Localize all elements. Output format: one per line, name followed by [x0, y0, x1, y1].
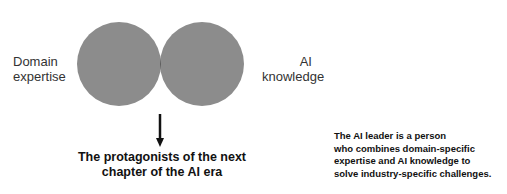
caption-line1: The protagonists of the next: [60, 150, 264, 165]
domain-expertise-circle: [77, 22, 161, 106]
domain-expertise-label: Domain expertise: [13, 54, 66, 84]
note-line3: expertise and AI knowledge to: [334, 155, 491, 168]
domain-expertise-label-line2: expertise: [13, 69, 66, 84]
domain-expertise-label-line1: Domain: [13, 54, 66, 69]
ai-knowledge-label-line2: knowledge: [262, 69, 312, 84]
caption-line2: chapter of the AI era: [60, 165, 264, 180]
ai-leader-note: The AI leader is a person who combines d…: [334, 130, 491, 180]
protagonists-caption: The protagonists of the next chapter of …: [60, 150, 264, 180]
note-line1: The AI leader is a person: [334, 130, 491, 143]
arrow-down-icon: [156, 138, 164, 147]
ai-knowledge-label-line1: AI: [262, 54, 312, 69]
note-line2: who combines domain-specific: [334, 143, 491, 156]
ai-knowledge-label: AI knowledge: [262, 54, 312, 84]
note-line4: solve industry-specific challenges.: [334, 168, 491, 181]
ai-knowledge-circle: [160, 22, 244, 106]
